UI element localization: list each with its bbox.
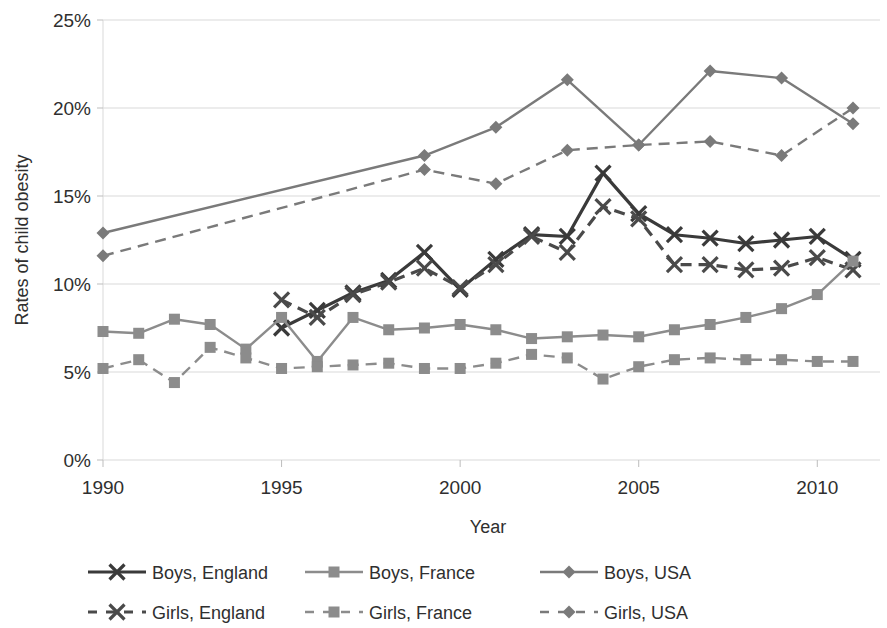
data-point-marker <box>383 358 394 369</box>
legend-label: Boys, France <box>369 563 475 583</box>
data-point-marker <box>669 354 680 365</box>
data-point-marker <box>812 289 823 300</box>
data-point-marker <box>847 102 860 115</box>
data-point-marker <box>169 314 180 325</box>
data-point-marker <box>848 256 859 267</box>
data-point-marker <box>97 226 110 239</box>
data-point-marker <box>419 363 430 374</box>
legend-item[interactable]: Girls, France <box>305 603 472 623</box>
data-point-marker <box>705 352 716 363</box>
data-point-marker <box>418 163 431 176</box>
gridlines <box>103 20 880 460</box>
axis-ticks <box>97 20 817 467</box>
series-girls-france <box>98 342 859 388</box>
data-point-marker <box>633 361 644 372</box>
data-point-marker <box>598 330 609 341</box>
data-point-marker <box>276 312 287 323</box>
y-axis-tick-label: 25% <box>53 10 91 31</box>
x-axis-title: Year <box>470 517 506 537</box>
data-point-marker <box>812 356 823 367</box>
data-point-marker <box>847 117 860 130</box>
legend-marker-swatch <box>329 607 340 618</box>
data-point-marker <box>669 324 680 335</box>
series-girls-england <box>274 199 860 325</box>
data-point-marker <box>704 135 717 148</box>
x-axis-tick-label: 2005 <box>618 477 660 498</box>
data-point-marker <box>598 374 609 385</box>
legend-label: Girls, USA <box>604 603 688 623</box>
legend-marker-swatch <box>563 566 576 579</box>
legend-item[interactable]: Girls, England <box>88 603 265 623</box>
data-point-marker <box>133 354 144 365</box>
data-point-marker <box>490 324 501 335</box>
data-point-marker <box>776 303 787 314</box>
data-point-marker <box>240 352 251 363</box>
data-point-marker <box>417 245 432 260</box>
chart-legend: Boys, EnglandGirls, EnglandBoys, FranceG… <box>88 563 691 623</box>
legend-item[interactable]: Boys, USA <box>540 563 691 583</box>
data-point-marker <box>98 326 109 337</box>
data-point-marker <box>133 328 144 339</box>
series-line <box>103 108 853 256</box>
legend-label: Girls, England <box>152 603 265 623</box>
data-point-marker <box>205 319 216 330</box>
legend-item[interactable]: Boys, England <box>88 563 268 583</box>
data-series-layer <box>97 65 861 389</box>
legend-marker-swatch <box>329 567 340 578</box>
data-point-marker <box>276 363 287 374</box>
y-axis-tick-labels: 0%5%10%15%20%25% <box>53 10 91 471</box>
x-axis-tick-label: 1990 <box>82 477 124 498</box>
data-point-marker <box>705 319 716 330</box>
data-point-marker <box>312 361 323 372</box>
data-point-marker <box>490 358 501 369</box>
data-point-marker <box>418 149 431 162</box>
x-axis-tick-label: 2010 <box>796 477 838 498</box>
data-point-marker <box>489 121 502 134</box>
data-point-marker <box>274 292 289 307</box>
obesity-line-chart: 0%5%10%15%20%25% 19901995200020052010 Bo… <box>0 0 887 628</box>
data-point-marker <box>419 323 430 334</box>
data-point-marker <box>417 261 432 276</box>
data-point-marker <box>596 199 611 214</box>
data-point-marker <box>455 319 466 330</box>
data-point-marker <box>526 349 537 360</box>
legend-label: Boys, England <box>152 563 268 583</box>
y-axis-tick-label: 15% <box>53 186 91 207</box>
x-axis-tick-labels: 19901995200020052010 <box>82 477 839 498</box>
data-point-marker <box>455 363 466 374</box>
legend-label: Girls, France <box>369 603 472 623</box>
series-line <box>282 207 853 318</box>
data-point-marker <box>489 177 502 190</box>
series-line <box>103 71 853 233</box>
y-axis-tick-label: 10% <box>53 274 91 295</box>
chart-canvas: 0%5%10%15%20%25% 19901995200020052010 Bo… <box>0 0 887 628</box>
data-point-marker <box>97 249 110 262</box>
data-point-marker <box>667 257 682 272</box>
data-point-marker <box>740 312 751 323</box>
y-axis-tick-label: 5% <box>64 362 92 383</box>
data-point-marker <box>776 354 787 365</box>
legend-marker-swatch <box>563 606 576 619</box>
data-point-marker <box>348 312 359 323</box>
data-point-marker <box>562 352 573 363</box>
data-point-marker <box>562 331 573 342</box>
data-point-marker <box>740 354 751 365</box>
legend-item[interactable]: Girls, USA <box>540 603 688 623</box>
data-point-marker <box>526 333 537 344</box>
data-point-marker <box>775 72 788 85</box>
legend-item[interactable]: Boys, France <box>305 563 475 583</box>
y-axis-title: Rates of child obesity <box>12 154 32 325</box>
x-axis-tick-label: 1995 <box>260 477 302 498</box>
data-point-marker <box>560 245 575 260</box>
data-point-marker <box>383 324 394 335</box>
data-point-marker <box>98 363 109 374</box>
data-point-marker <box>169 377 180 388</box>
data-point-marker <box>633 331 644 342</box>
y-axis-tick-label: 20% <box>53 98 91 119</box>
legend-label: Boys, USA <box>604 563 691 583</box>
data-point-marker <box>848 356 859 367</box>
y-axis-tick-label: 0% <box>64 450 92 471</box>
data-point-marker <box>348 359 359 370</box>
data-point-marker <box>453 280 468 295</box>
data-point-marker <box>775 149 788 162</box>
